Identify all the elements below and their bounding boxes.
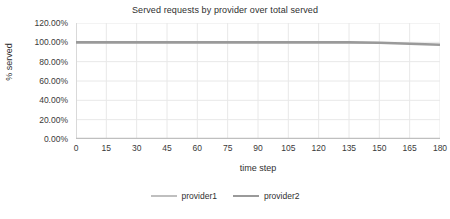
x-tick-label: 135 — [342, 144, 356, 153]
x-tick-label: 120 — [312, 144, 326, 153]
chart-title: Served requests by provider over total s… — [0, 5, 450, 15]
legend-label: provider1 — [182, 192, 217, 201]
legend-item-provider2[interactable]: provider2 — [233, 192, 299, 201]
chart-legend: provider1provider2 — [0, 192, 450, 201]
y-axis-tick-labels: 0.00%20.00%40.00%60.00%80.00%100.00%120.… — [0, 23, 72, 139]
y-tick-label: 0.00% — [44, 135, 68, 144]
y-tick-label: 60.00% — [39, 77, 68, 86]
x-tick-label: 0 — [74, 144, 79, 153]
x-tick-label: 15 — [102, 144, 111, 153]
x-tick-label: 150 — [372, 144, 386, 153]
legend-item-provider1[interactable]: provider1 — [151, 192, 217, 201]
x-tick-label: 45 — [162, 144, 171, 153]
y-tick-label: 100.00% — [34, 38, 68, 47]
legend-label: provider2 — [264, 192, 299, 201]
y-tick-label: 20.00% — [39, 115, 68, 124]
x-axis-title: time step — [76, 163, 440, 173]
x-tick-label: 60 — [193, 144, 202, 153]
legend-swatch-icon — [151, 195, 177, 197]
x-tick-label: 75 — [223, 144, 232, 153]
y-tick-label: 80.00% — [39, 57, 68, 66]
x-tick-label: 30 — [132, 144, 141, 153]
x-tick-label: 105 — [281, 144, 295, 153]
x-axis-tick-labels: 0153045607590105120135150165180 — [76, 144, 440, 158]
x-tick-label: 180 — [433, 144, 447, 153]
x-tick-label: 165 — [403, 144, 417, 153]
chart-container: Served requests by provider over total s… — [0, 0, 450, 219]
plot-area — [76, 23, 440, 139]
x-tick-label: 90 — [253, 144, 262, 153]
plot-svg — [76, 23, 440, 139]
y-tick-label: 120.00% — [34, 19, 68, 28]
legend-swatch-icon — [233, 195, 259, 197]
y-tick-label: 40.00% — [39, 96, 68, 105]
